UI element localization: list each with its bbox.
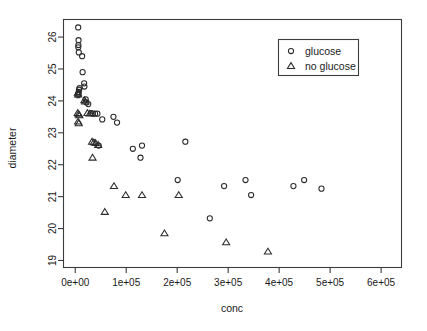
y-tick-label-1: 20	[47, 223, 58, 235]
data-point-circle	[319, 186, 324, 191]
data-point-circle	[183, 139, 188, 144]
data-point-circle	[100, 117, 105, 122]
x-tick-label-5: 5e+05	[316, 277, 345, 288]
x-axis-title: conc	[221, 302, 243, 314]
data-point-triangle	[122, 192, 129, 198]
x-axis-ticks	[75, 268, 381, 274]
y-axis-title: diameter	[6, 127, 18, 168]
x-tick-label-1: 1e+05	[112, 277, 141, 288]
data-point-circle	[138, 155, 143, 160]
y-tick-label-0: 19	[47, 254, 58, 266]
series-no-glucose-points	[74, 90, 271, 254]
data-point-triangle	[175, 192, 182, 198]
data-point-triangle	[223, 239, 230, 245]
y-tick-label-3: 22	[47, 159, 58, 171]
legend-label-glucose: glucose	[305, 45, 341, 57]
data-point-circle	[80, 70, 85, 75]
scatter-plot-figure: 0e+001e+052e+053e+054e+055e+056e+05 1920…	[0, 0, 427, 331]
legend-label-no-glucose: no glucose	[305, 60, 356, 72]
y-axis-tick-labels: 1920212223242526	[47, 31, 58, 266]
data-point-circle	[243, 177, 248, 182]
y-tick-label-4: 23	[47, 127, 58, 139]
y-tick-label-7: 26	[47, 31, 58, 43]
data-point-triangle	[138, 192, 145, 198]
x-tick-label-0: 0e+00	[61, 277, 90, 288]
legend: glucose no glucose	[279, 40, 359, 76]
data-point-triangle	[264, 248, 271, 254]
y-tick-label-5: 24	[47, 95, 58, 107]
data-point-circle	[302, 177, 307, 182]
data-point-circle	[80, 54, 85, 59]
data-point-circle	[207, 216, 212, 221]
y-tick-label-2: 21	[47, 191, 58, 203]
data-point-circle	[221, 184, 226, 189]
data-point-triangle	[161, 230, 168, 236]
data-point-circle	[139, 143, 144, 148]
data-point-circle	[111, 114, 116, 119]
plot-canvas: 0e+001e+052e+053e+054e+055e+056e+05 1920…	[0, 0, 427, 331]
data-point-circle	[249, 192, 254, 197]
y-axis-ticks	[58, 37, 64, 260]
x-tick-label-6: 6e+05	[367, 277, 396, 288]
data-point-triangle	[89, 154, 96, 160]
x-tick-label-2: 2e+05	[163, 277, 192, 288]
data-point-circle	[114, 120, 119, 125]
y-tick-label-6: 25	[47, 63, 58, 75]
x-tick-label-4: 4e+05	[265, 277, 294, 288]
data-point-triangle	[110, 183, 117, 189]
data-point-circle	[175, 177, 180, 182]
x-axis-tick-labels: 0e+001e+052e+053e+054e+055e+056e+05	[61, 277, 395, 288]
data-point-circle	[130, 146, 135, 151]
data-point-circle	[76, 25, 81, 30]
data-point-circle	[291, 184, 296, 189]
data-point-triangle	[101, 209, 108, 215]
x-tick-label-3: 3e+05	[214, 277, 243, 288]
